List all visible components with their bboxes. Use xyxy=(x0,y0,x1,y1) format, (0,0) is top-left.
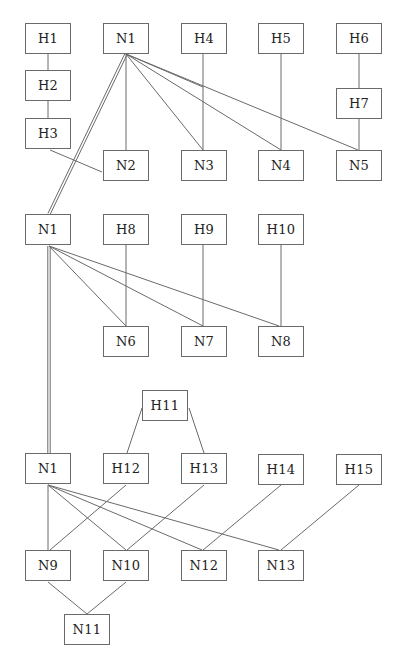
node-label: H9 xyxy=(194,222,214,237)
edge xyxy=(48,485,279,550)
node-h14: H14 xyxy=(258,454,304,485)
node-n11: N11 xyxy=(64,614,110,645)
node-label: H8 xyxy=(116,222,136,237)
node-label: N12 xyxy=(190,558,219,573)
node-label: H5 xyxy=(271,31,291,46)
node-h12: H12 xyxy=(103,453,149,484)
node-h5: H5 xyxy=(258,23,304,54)
node-n2: N2 xyxy=(103,150,149,181)
edge xyxy=(49,246,126,326)
edge xyxy=(48,582,87,614)
node-n13: N13 xyxy=(258,550,304,581)
node-h15: H15 xyxy=(336,454,382,485)
node-label: H3 xyxy=(38,126,58,141)
node-n9: N9 xyxy=(25,550,71,581)
node-n3: N3 xyxy=(181,150,227,181)
node-label: H6 xyxy=(349,31,369,46)
node-label: N1 xyxy=(38,222,58,237)
node-label: H14 xyxy=(267,462,296,477)
node-h3: H3 xyxy=(25,118,71,149)
node-label: H10 xyxy=(267,222,296,237)
node-label: N1 xyxy=(38,461,58,476)
node-label: H1 xyxy=(38,31,58,46)
edge xyxy=(126,54,203,150)
node-n4: N4 xyxy=(258,150,304,181)
node-label: N3 xyxy=(194,158,214,173)
node-label: H7 xyxy=(349,96,369,111)
node-label: N10 xyxy=(112,558,141,573)
node-n7: N7 xyxy=(181,326,227,357)
node-n6: N6 xyxy=(103,326,149,357)
node-n1b: N1 xyxy=(25,214,71,245)
node-h7: H7 xyxy=(336,88,382,119)
node-label: H13 xyxy=(190,461,219,476)
edge xyxy=(189,408,204,453)
edge xyxy=(49,246,279,326)
node-n1c: N1 xyxy=(25,453,71,484)
node-h8: H8 xyxy=(103,214,149,245)
node-label: H12 xyxy=(112,461,141,476)
node-label: H4 xyxy=(194,31,214,46)
node-h2: H2 xyxy=(25,70,71,101)
node-label: H2 xyxy=(38,78,58,93)
node-label: H11 xyxy=(151,398,180,413)
node-h1: H1 xyxy=(25,23,71,54)
edge xyxy=(127,408,142,453)
edge xyxy=(48,485,202,550)
node-h6: H6 xyxy=(336,23,382,54)
node-n10: N10 xyxy=(103,550,149,581)
edge xyxy=(203,485,281,550)
edge xyxy=(126,54,203,87)
node-h10: H10 xyxy=(258,214,304,245)
node-label: N4 xyxy=(271,158,291,173)
node-h4: H4 xyxy=(181,23,227,54)
node-label: N11 xyxy=(73,622,102,637)
edge xyxy=(281,485,359,550)
node-label: N8 xyxy=(271,334,291,349)
node-n5: N5 xyxy=(336,150,382,181)
node-n1a: N1 xyxy=(103,23,149,54)
diagram-canvas: H1N1H4H5H6H2H7H3N2N3N4N5N1H8H9H10N6N7N8H… xyxy=(0,0,408,665)
node-label: H15 xyxy=(345,462,374,477)
node-label: N6 xyxy=(116,334,136,349)
edge xyxy=(87,582,126,614)
node-label: N5 xyxy=(349,158,369,173)
node-h9: H9 xyxy=(181,214,227,245)
node-n12: N12 xyxy=(181,550,227,581)
node-n8: N8 xyxy=(258,326,304,357)
node-label: N9 xyxy=(38,558,58,573)
node-label: N13 xyxy=(267,558,296,573)
node-label: N7 xyxy=(194,334,214,349)
edge xyxy=(127,485,204,550)
node-label: N2 xyxy=(116,158,136,173)
node-h13: H13 xyxy=(181,453,227,484)
node-h11: H11 xyxy=(142,390,188,421)
node-label: N1 xyxy=(116,31,136,46)
